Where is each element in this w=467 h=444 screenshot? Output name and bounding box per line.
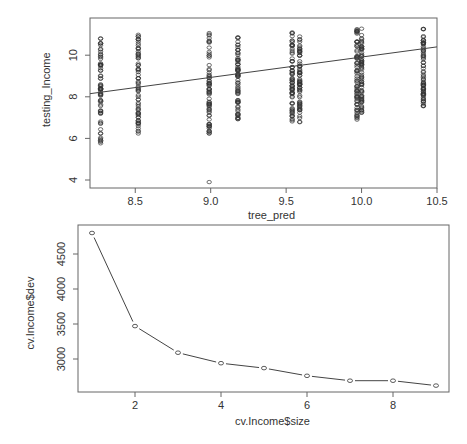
data-point (262, 366, 267, 370)
plot1-points (98, 27, 425, 184)
line-segment (398, 381, 431, 385)
plot2-x-axis-label: cv.Income$size (235, 415, 310, 427)
plot1-frame (90, 18, 437, 188)
x-tick-label: 8 (390, 399, 396, 411)
data-point (359, 33, 363, 36)
line-segment (139, 329, 173, 350)
data-point (219, 361, 224, 365)
plot1-y-ticks: 46810 (67, 49, 90, 183)
scatter-plot: 8.59.09.510.010.5 46810 2468 30003500400… (0, 0, 467, 444)
x-tick-label: 9.5 (278, 195, 293, 207)
plot1-x-ticks: 8.59.09.510.010.5 (128, 188, 448, 207)
data-point (207, 46, 211, 49)
data-point (421, 64, 425, 67)
plot2-x-ticks: 2468 (132, 392, 396, 411)
y-tick-label: 3500 (55, 312, 67, 336)
plot2-y-ticks: 3000350040004500 (55, 242, 78, 371)
plot1-fit-line (90, 47, 437, 94)
x-tick-label: 10.5 (426, 195, 447, 207)
y-tick-label: 10 (67, 49, 79, 61)
y-tick-label: 3000 (55, 347, 67, 371)
data-point (359, 27, 363, 30)
line-segment (94, 238, 133, 322)
plot2-line (90, 231, 439, 387)
data-point (207, 118, 211, 121)
plot1-x-axis-label: tree_pred (248, 209, 295, 221)
y-tick-label: 4500 (55, 242, 67, 266)
line-segment (269, 369, 302, 375)
data-point (207, 63, 211, 66)
y-tick-label: 4000 (55, 277, 67, 301)
y-tick-label: 4 (67, 177, 79, 183)
x-tick-label: 9.0 (203, 195, 218, 207)
outlier-point (207, 180, 211, 183)
y-tick-label: 8 (67, 94, 79, 100)
x-tick-label: 6 (304, 399, 310, 411)
data-point (176, 351, 181, 355)
plot1-y-axis-label: testing_Income (40, 57, 52, 127)
data-point (90, 231, 95, 235)
data-point (298, 60, 302, 63)
y-tick-label: 6 (67, 135, 79, 141)
data-point (305, 374, 310, 378)
data-point (348, 379, 353, 383)
x-tick-label: 10.0 (351, 195, 372, 207)
x-tick-label: 4 (218, 399, 224, 411)
plot2-frame (78, 225, 449, 392)
plot2-y-axis-label: cv.Income$dev (24, 273, 36, 353)
line-segment (226, 364, 259, 368)
data-point (434, 384, 439, 388)
data-point (133, 324, 138, 328)
data-point (98, 128, 102, 131)
x-tick-label: 2 (132, 399, 138, 411)
x-tick-label: 8.5 (128, 195, 143, 207)
line-segment (183, 354, 216, 362)
line-segment (312, 376, 345, 380)
data-point (391, 379, 396, 383)
